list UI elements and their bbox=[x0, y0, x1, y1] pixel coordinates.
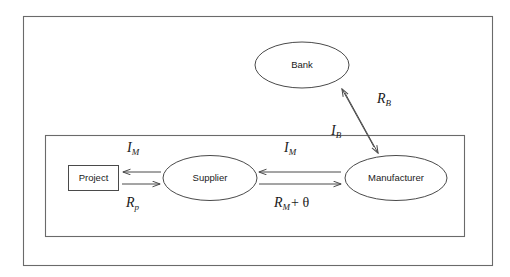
node-supplier-label: Supplier bbox=[193, 172, 228, 183]
node-project-label: Project bbox=[79, 172, 109, 183]
edge-label-r-b: RB bbox=[377, 92, 391, 106]
diagram-svg: Bank Project Supplier Manufacturer bbox=[0, 0, 510, 277]
edge-label-i-b: IB bbox=[331, 124, 341, 138]
node-bank-label: Bank bbox=[291, 59, 313, 70]
arrow-bank-to-manufacturer bbox=[345, 93, 378, 153]
edge-label-i-m-project: IM bbox=[127, 141, 139, 155]
node-manufacturer-label: Manufacturer bbox=[368, 172, 424, 183]
inner-frame bbox=[46, 136, 465, 237]
diagram-canvas: Bank Project Supplier Manufacturer IM Rp… bbox=[0, 0, 510, 277]
outer-frame bbox=[24, 17, 493, 266]
edge-label-i-m-supplier: IM bbox=[284, 141, 296, 155]
edge-label-r-m-theta: RM+ θ bbox=[274, 196, 310, 210]
edge-label-r-p: Rp bbox=[126, 196, 139, 210]
arrow-manufacturer-to-bank bbox=[342, 89, 374, 147]
